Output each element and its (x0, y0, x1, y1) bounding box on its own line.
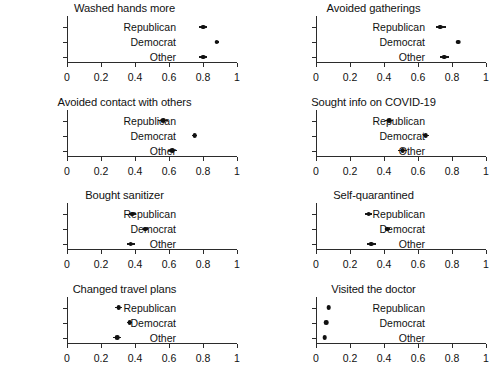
y-axis-line (67, 203, 68, 250)
x-tick (135, 157, 136, 161)
y-axis-line (67, 297, 68, 344)
y-axis-line (316, 16, 317, 63)
y-axis-line (316, 110, 317, 157)
y-tick (63, 27, 67, 28)
x-tick (101, 250, 102, 254)
x-tick (452, 63, 453, 67)
x-tick (135, 344, 136, 348)
x-tick (418, 250, 419, 254)
y-tick (312, 338, 316, 339)
data-point-marker (115, 335, 120, 340)
y-tick (312, 214, 316, 215)
x-tick (101, 344, 102, 348)
x-tick-label: 0.6 (162, 165, 177, 177)
data-point-marker (369, 242, 374, 247)
x-tick (384, 157, 385, 161)
plot-area: 00.20.40.60.81 (316, 205, 486, 250)
data-point-marker (442, 55, 447, 60)
x-axis-line (67, 156, 237, 157)
x-tick (237, 63, 238, 67)
y-tick (63, 121, 67, 122)
x-tick-label: 0.4 (128, 165, 143, 177)
x-tick-label: 0.4 (377, 352, 392, 364)
y-tick (312, 323, 316, 324)
x-tick-label: 0.4 (377, 71, 392, 83)
x-tick-label: 0.8 (196, 352, 211, 364)
x-tick-label: 1 (483, 352, 489, 364)
x-tick (169, 157, 170, 161)
x-tick-label: 0.2 (94, 71, 109, 83)
panel-5: Bought sanitizerRepublicanDemocratOther0… (0, 187, 249, 281)
panel-8: Visited the doctorRepublicanDemocratOthe… (249, 281, 498, 374)
data-point-marker (143, 227, 148, 232)
y-tick (312, 121, 316, 122)
y-axis-line (67, 16, 68, 63)
x-tick-label: 0.2 (94, 165, 109, 177)
x-tick-label: 0.6 (162, 71, 177, 83)
y-tick (312, 244, 316, 245)
x-tick-label: 0.8 (196, 71, 211, 83)
x-tick-label: 1 (234, 258, 240, 270)
y-tick (312, 42, 316, 43)
y-tick (312, 229, 316, 230)
x-tick (237, 344, 238, 348)
data-point-marker (201, 55, 206, 60)
x-axis-line (67, 249, 237, 250)
x-tick-label: 0.2 (94, 258, 109, 270)
data-point-marker (322, 335, 327, 340)
x-tick-label: 0.6 (411, 165, 426, 177)
data-point-marker (326, 305, 331, 310)
plot-area: 00.20.40.60.81 (67, 299, 237, 344)
x-axis-line (316, 249, 486, 250)
data-point-marker (456, 40, 461, 45)
panel-title: Washed hands more (0, 2, 249, 14)
plot-area: 00.20.40.60.81 (67, 18, 237, 63)
x-tick-label: 0.6 (411, 352, 426, 364)
panel-7: Changed travel plansRepublicanDemocratOt… (0, 281, 249, 374)
panel-2: Avoided gatheringsRepublicanDemocratOthe… (249, 0, 498, 94)
x-axis-line (316, 62, 486, 63)
x-tick (67, 344, 68, 348)
small-multiples-figure: Washed hands moreRepublicanDemocratOther… (0, 0, 498, 374)
x-axis-line (316, 156, 486, 157)
plot-area: 00.20.40.60.81 (67, 205, 237, 250)
x-tick-label: 0.4 (377, 258, 392, 270)
plot-area: 00.20.40.60.81 (316, 299, 486, 344)
x-tick-label: 0.2 (343, 352, 358, 364)
panel-title: Sought info on COVID-19 (249, 96, 498, 108)
data-point-marker (214, 40, 219, 45)
x-tick (67, 157, 68, 161)
x-tick (452, 250, 453, 254)
x-tick-label: 0.4 (128, 71, 143, 83)
panel-title: Avoided gatherings (249, 2, 498, 14)
panel-title: Bought sanitizer (0, 189, 249, 201)
x-tick-label: 0 (64, 71, 70, 83)
x-tick (135, 250, 136, 254)
y-tick (63, 308, 67, 309)
x-tick-label: 1 (483, 165, 489, 177)
panel-3: Avoided contact with othersRepublicanDem… (0, 94, 249, 188)
y-tick (63, 338, 67, 339)
x-tick-label: 0.2 (94, 352, 109, 364)
x-tick (67, 63, 68, 67)
data-point-marker (161, 118, 166, 123)
y-tick (63, 214, 67, 215)
x-tick-label: 0.8 (445, 258, 460, 270)
x-tick-label: 0.2 (343, 258, 358, 270)
x-tick (486, 63, 487, 67)
x-tick (350, 63, 351, 67)
x-tick (316, 344, 317, 348)
panel-4: Sought info on COVID-19RepublicanDemocra… (249, 94, 498, 188)
data-point-marker (128, 320, 133, 325)
x-tick (316, 157, 317, 161)
x-tick (384, 63, 385, 67)
x-axis-line (67, 62, 237, 63)
x-tick (486, 344, 487, 348)
y-tick (312, 136, 316, 137)
data-point-marker (366, 212, 371, 217)
y-tick (63, 244, 67, 245)
x-tick-label: 0.6 (162, 258, 177, 270)
y-axis-line (316, 203, 317, 250)
plot-area: 00.20.40.60.81 (67, 112, 237, 157)
data-point-marker (385, 227, 390, 232)
